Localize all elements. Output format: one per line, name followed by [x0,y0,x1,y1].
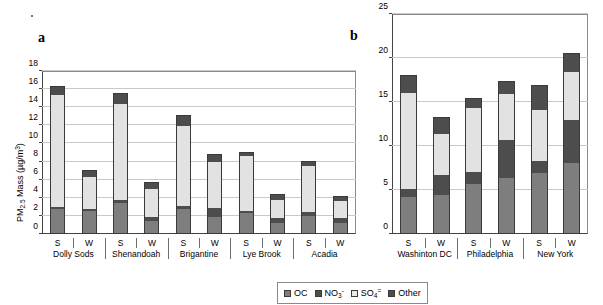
bar-segment-no3 [466,172,481,183]
y-tick-label: 10 [29,131,38,140]
x-group-label: Shenandoah [112,249,160,259]
legend-swatch-other-icon [388,290,395,297]
x-season-label: W [568,238,576,248]
x-axis-separator [293,238,294,259]
x-axis-separator [168,238,169,259]
bar-segment-other [564,54,579,72]
panel-a-plot-area: 024681012141618 [42,71,356,234]
legend-swatch-oc-icon [284,290,291,297]
bar-segment-oc [240,213,253,233]
x-season-label: W [211,238,219,248]
stacked-bar [531,85,548,234]
stacked-bar [563,53,580,234]
y-tick-mark [39,106,42,107]
x-season-label: S [180,238,186,248]
y-tick-label: 2 [33,203,38,212]
legend-label-so4-superscript: = [377,287,381,294]
gridline [392,13,588,14]
figure-root: a b PM2.5 Mass (µg/m3) 024681012141618 S… [0,0,603,305]
bar-segment-other [114,94,127,103]
x-season-label: W [85,238,93,248]
stacked-bar [82,170,97,234]
bar-segment-so4 [334,201,347,217]
y-tick-mark [389,13,392,14]
bar-segment-so4 [271,200,284,217]
bar-segment-oc [499,178,514,233]
gridline [392,57,588,58]
bar-segment-so4 [532,110,547,161]
legend-item-no3: NO3- [315,285,344,301]
bar-segment-other [466,99,481,108]
panel-b-plot-area: 0510152025 [392,14,588,234]
y-tick-label: 25 [379,2,388,11]
stacked-bar [239,152,254,234]
bar-segment-no3 [564,120,579,162]
panel-a-letter: a [38,30,45,46]
x-axis-separator [136,238,137,248]
bar-segment-so4 [240,156,253,211]
x-season-label: W [273,238,281,248]
bar-segment-oc [51,209,64,233]
y-tick-label: 16 [29,77,38,86]
y-tick-mark [39,179,42,180]
y-tick-label: 4 [33,185,38,194]
bar-segment-other [401,76,416,93]
bar-segment-so4 [564,72,579,120]
x-axis-separator [230,238,231,259]
x-season-label: W [336,238,344,248]
x-season-label: W [437,238,445,248]
bar-segment-no3 [401,189,416,197]
y-tick-mark [39,233,42,234]
gridline [42,88,356,89]
bar-segment-oc [532,173,547,233]
x-axis-separator [105,238,106,259]
bar-segment-no3 [434,175,449,195]
x-season-label: S [405,238,411,248]
bar-segment-oc [334,223,347,233]
panel-a-x-axis-labels: SWSWSWSWSWDolly SodsShenandoahBrigantine… [42,236,356,266]
y-tick-label: 10 [379,134,388,143]
x-group-label: Washinton DC [397,249,451,259]
bar-segment-no3 [208,208,221,217]
bar-segment-so4 [434,134,449,175]
y-tick-label: 0 [33,222,38,231]
y-tick-mark [389,101,392,102]
x-axis-separator [262,238,263,248]
x-axis-separator [555,238,556,248]
bar-segment-so4 [401,93,416,189]
stray-speck [31,15,33,17]
y-tick-label: 12 [29,113,38,122]
gridline [42,70,356,71]
legend-swatch-so4-icon [351,290,358,297]
x-axis-separator [199,238,200,248]
x-axis-separator [457,238,458,259]
bar-segment-so4 [83,177,96,209]
legend-item-oc: OC [284,288,308,299]
stacked-bar [433,117,450,234]
bar-segment-no3 [532,161,547,173]
bar-segment-so4 [51,95,64,206]
gridline [42,106,356,107]
bar-segment-oc [302,216,315,233]
y-axis-title-mid: Mass (µg/m [15,150,25,200]
panel-b-x-axis-labels: SWSWSWWashinton DCPhiladelphiaNew York [392,236,588,266]
stacked-bar [333,196,348,234]
y-axis-title-prefix: PM [15,209,25,223]
y-tick-mark [39,197,42,198]
bar-segment-oc [466,184,481,233]
x-season-label: S [536,238,542,248]
x-season-label: W [148,238,156,248]
bar-segment-so4 [177,126,190,206]
x-axis-separator [523,238,524,259]
legend-item-so4: SO4= [351,285,381,301]
bar-segment-so4 [114,104,127,201]
bar-segment-oc [564,163,579,233]
y-tick-mark [39,161,42,162]
x-season-label: S [118,238,124,248]
bar-segment-other [208,155,221,162]
gridline [392,101,588,102]
x-group-label: Dolly Sods [53,249,94,259]
x-axis-separator [325,238,326,248]
y-tick-mark [39,124,42,125]
bar-segment-other [499,82,514,94]
